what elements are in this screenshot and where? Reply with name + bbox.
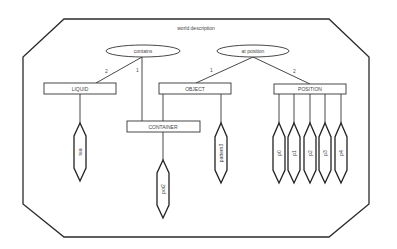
type-object[interactable]: OBJECT <box>159 83 231 94</box>
edge-label: 2 <box>293 68 296 74</box>
instance-pot2[interactable]: pot2 <box>157 160 169 218</box>
instance-p1[interactable]: p1 <box>288 123 300 183</box>
instance-p3[interactable]: p3 <box>319 123 331 183</box>
type-label: OBJECT <box>185 86 205 92</box>
type-label: CONTAINER <box>148 124 177 130</box>
type-container[interactable]: CONTAINER <box>127 121 200 132</box>
instance-p2[interactable]: p2 <box>304 123 316 183</box>
relation-at-position[interactable]: at position <box>217 45 289 57</box>
relation-contains[interactable]: contains <box>106 45 180 57</box>
relation-label: contains <box>134 48 153 54</box>
diagram-canvas: world description 2 1 1 2 contains at po… <box>0 0 397 249</box>
diagram-title: world description <box>177 25 215 31</box>
instance-label: pattern3 <box>218 144 224 163</box>
instance-label: p4 <box>338 150 344 156</box>
instance-label: pot2 <box>160 184 166 194</box>
instance-tea[interactable]: tea <box>74 123 86 181</box>
instance-pattern3[interactable]: pattern3 <box>215 123 227 183</box>
relation-label: at position <box>242 48 265 54</box>
edge-label: 1 <box>136 67 139 73</box>
instance-label: tea <box>77 148 83 155</box>
edge-label: 1 <box>210 67 213 73</box>
edge-label: 2 <box>105 68 108 74</box>
type-label: LIQUID <box>72 86 89 92</box>
instance-label: p2 <box>307 150 313 156</box>
type-liquid[interactable]: LIQUID <box>44 83 116 94</box>
type-label: POSITION <box>298 86 322 92</box>
type-position[interactable]: POSITION <box>274 84 346 94</box>
instance-label: p0 <box>276 150 282 156</box>
instance-p0[interactable]: p0 <box>273 123 285 183</box>
instance-label: p3 <box>322 150 328 156</box>
instance-label: p1 <box>291 150 297 156</box>
instance-p4[interactable]: p4 <box>335 123 347 183</box>
